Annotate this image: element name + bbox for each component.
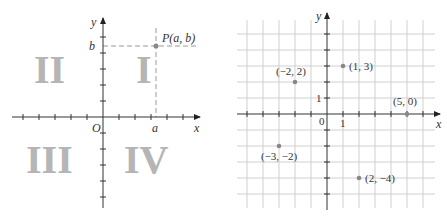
- point-5-0: [405, 112, 410, 117]
- unit-x-label: 1: [340, 117, 346, 129]
- quadrant-III-label: III: [26, 137, 73, 182]
- left-quadrant-diagram: II I III IV: [12, 15, 200, 208]
- point-label-neg2-2: (−2, 2): [276, 65, 306, 78]
- point-2-neg4: [357, 176, 362, 181]
- origin-label: 0: [319, 115, 325, 127]
- point-label-neg3-neg2: (−3, −2): [261, 150, 298, 163]
- point-neg3-neg2: [277, 144, 282, 149]
- x-axis-label: x: [193, 121, 200, 135]
- figure: II I III IV: [0, 0, 447, 220]
- quadrant-II-label: II: [34, 47, 65, 92]
- point-1-3: [341, 64, 346, 69]
- unit-y-label: 1: [316, 92, 322, 104]
- right-coordinate-grid: (1, 3) (−2, 2) (5, 0) (−3, −2) (2, −4) 0…: [237, 9, 442, 210]
- point-neg2-2: [293, 80, 298, 85]
- point-label-2-neg4: (2, −4): [365, 172, 395, 185]
- y-axis-label: y: [315, 9, 322, 23]
- point-label-1-3: (1, 3): [349, 60, 373, 73]
- point-P-label: P(a, b): [161, 31, 195, 45]
- point-P: [154, 44, 159, 49]
- b-label: b: [89, 39, 95, 53]
- a-label: a: [152, 121, 158, 135]
- quadrant-IV-label: IV: [124, 137, 169, 182]
- point-label-5-0: (5, 0): [393, 95, 417, 108]
- origin-label: O: [92, 121, 101, 135]
- quadrant-I-label: I: [136, 47, 152, 92]
- x-axis-label: x: [435, 117, 442, 131]
- y-axis-label: y: [90, 15, 97, 29]
